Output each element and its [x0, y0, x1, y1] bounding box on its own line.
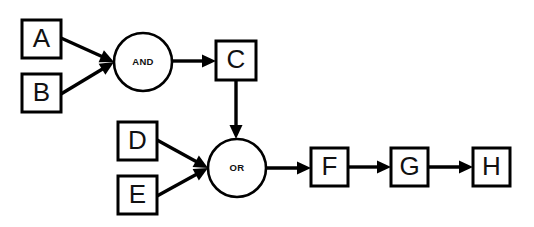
edge-line: [157, 140, 197, 162]
node-label-c: C: [227, 44, 246, 74]
node-or[interactable]: OR: [208, 139, 266, 197]
node-label-g: G: [399, 151, 419, 181]
edge-b-to-and: [61, 62, 114, 94]
node-label-f: F: [322, 151, 338, 181]
edge-line: [61, 68, 104, 94]
node-label-and: AND: [132, 56, 153, 67]
arrow-head-icon: [377, 161, 391, 174]
edge-line: [61, 38, 103, 57]
node-and[interactable]: AND: [114, 33, 172, 91]
edge-f-to-g: [348, 161, 391, 174]
arrow-head-icon: [459, 161, 473, 174]
edge-and-to-c: [172, 55, 216, 68]
node-label-a: A: [33, 23, 51, 53]
node-b[interactable]: B: [22, 74, 61, 112]
node-label-d: D: [128, 125, 147, 155]
node-d[interactable]: D: [118, 122, 157, 160]
arrow-head-icon: [230, 125, 243, 139]
node-label-e: E: [129, 179, 146, 209]
node-label-h: H: [482, 151, 501, 181]
node-label-b: B: [33, 77, 50, 107]
node-g[interactable]: G: [391, 148, 428, 186]
edge-d-to-or: [157, 140, 208, 168]
node-c[interactable]: C: [216, 41, 256, 80]
edge-a-to-and: [61, 38, 114, 62]
logic-diagram-canvas: ABANDCDEORFGH: [0, 0, 534, 227]
node-e[interactable]: E: [118, 176, 157, 214]
diagram-svg: ABANDCDEORFGH: [0, 0, 534, 227]
node-f[interactable]: F: [311, 148, 348, 186]
arrow-head-icon: [297, 162, 311, 175]
edge-g-to-h: [428, 161, 473, 174]
edge-or-to-f: [266, 162, 311, 175]
edge-e-to-or: [157, 168, 208, 196]
node-h[interactable]: H: [473, 148, 510, 186]
edge-line: [157, 174, 197, 196]
nodes-layer: ABANDCDEORFGH: [22, 20, 510, 214]
arrow-head-icon: [202, 55, 216, 68]
node-a[interactable]: A: [22, 20, 61, 58]
edge-c-to-or: [230, 80, 243, 139]
node-label-or: OR: [230, 162, 245, 173]
